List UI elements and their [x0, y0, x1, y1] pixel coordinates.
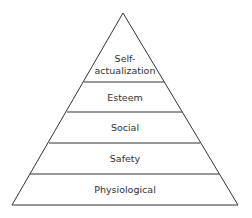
level-self-actualization-line2: actualization	[95, 65, 156, 76]
level-social: Social	[111, 122, 139, 133]
pyramid-diagram: Self- actualization Esteem Social Safety…	[0, 0, 252, 218]
level-self-actualization-line1: Self-	[115, 53, 136, 64]
level-physiological: Physiological	[94, 184, 156, 195]
level-safety: Safety	[110, 153, 141, 164]
pyramid-outline	[12, 13, 238, 205]
level-esteem: Esteem	[107, 92, 143, 103]
